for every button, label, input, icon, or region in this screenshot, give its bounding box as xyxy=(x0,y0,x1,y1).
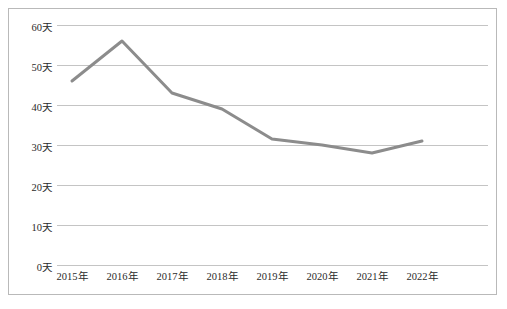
chart-frame-border xyxy=(8,8,497,295)
chart-container: 60天 50天 40天 30天 20天 10天 0天 2015年 2016年 2… xyxy=(0,0,507,309)
